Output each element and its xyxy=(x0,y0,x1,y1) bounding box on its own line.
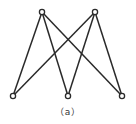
vertex-b1 xyxy=(10,93,15,98)
edge-t2-b2 xyxy=(68,12,95,96)
vertex-b3 xyxy=(119,93,124,98)
vertex-t2 xyxy=(92,9,97,14)
edge-t2-b3 xyxy=(95,12,122,96)
graph-edges xyxy=(13,12,122,96)
vertex-t1 xyxy=(39,9,44,14)
edge-t1-b1 xyxy=(13,12,42,96)
figure-caption: （a） xyxy=(0,105,136,118)
vertex-b2 xyxy=(65,93,70,98)
